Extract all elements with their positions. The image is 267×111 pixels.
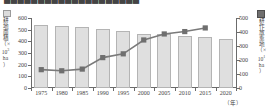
chart-figure: ████████████████████ 耕 地 面 積 （× 103 ha ）… [0,0,267,111]
x-axis-unit-label: （年） [224,99,242,107]
line-series [0,0,267,111]
line-marker-2015 [203,25,208,30]
line-marker-1980 [59,68,64,73]
line-marker-1990 [100,55,105,60]
line-marker-1985 [80,67,85,72]
line-marker-2005 [162,31,167,36]
line-marker-2010 [182,29,187,34]
line-path [41,28,205,71]
line-marker-2000 [141,37,146,42]
line-marker-1975 [39,67,44,72]
line-marker-1995 [121,51,126,56]
